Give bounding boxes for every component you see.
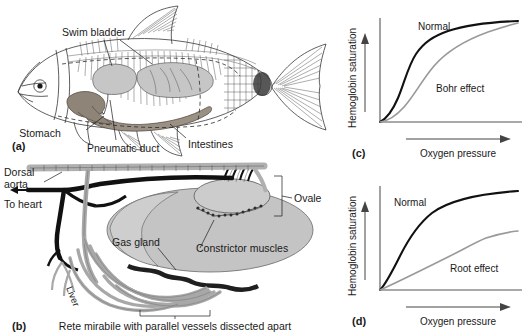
x-axis-arrowhead <box>500 303 511 311</box>
curve-label-bohr: Bohr effect <box>436 83 484 94</box>
y-axis-arrowhead <box>361 33 369 44</box>
panel-b-rete-mirabile: Liver Dorsal aorta To heart Ovale Constr… <box>0 158 340 334</box>
curve-root-effect <box>380 231 518 290</box>
panel-letter-b: (b) <box>12 320 26 332</box>
y-axis-arrowhead <box>361 201 369 212</box>
panel-letter-d: (d) <box>352 315 366 327</box>
panel-a-fish-anatomy: Swim bladder Stomach Pneumatic duct Inte… <box>0 0 340 160</box>
curve-label-root: Root effect <box>450 263 498 274</box>
label-stomach: Stomach <box>19 127 61 139</box>
curve-bohr-effect <box>380 23 518 122</box>
panel-letter-c: (c) <box>352 147 366 159</box>
label-dorsal-aorta-line1: Dorsal <box>4 166 34 178</box>
curve-label-normal: Normal <box>418 21 450 32</box>
curve-label-normal: Normal <box>394 197 426 208</box>
curve-normal <box>380 21 518 122</box>
label-gas-gland: Gas gland <box>112 236 160 248</box>
label-dorsal-aorta-line2: aorta <box>4 178 28 190</box>
x-axis-arrowhead <box>500 135 511 143</box>
label-to-heart: To heart <box>4 198 42 210</box>
figure-swim-bladder-and-hemoglobin: Swim bladder Stomach Pneumatic duct Inte… <box>0 0 530 334</box>
panel-letter-a: (a) <box>12 140 26 152</box>
label-ovale: Ovale <box>294 192 322 204</box>
panel-d-root-chart: Hemoglobin saturation Normal Root effect… <box>340 166 530 334</box>
x-axis-label: Oxygen pressure <box>420 148 497 159</box>
label-pneumatic-duct: Pneumatic duct <box>87 142 159 154</box>
y-axis-label: Hemoglobin saturation <box>347 196 358 296</box>
x-axis-label: Oxygen pressure <box>420 316 497 327</box>
y-axis-label-line1: Hemoglobin saturation <box>347 28 358 128</box>
label-swim-bladder: Swim bladder <box>62 26 126 38</box>
label-intestines: Intestines <box>188 138 233 150</box>
caption-rete-mirabile: Rete mirabile with parallel vessels diss… <box>59 320 291 332</box>
label-liver: Liver <box>64 285 82 308</box>
panel-c-bohr-chart: Hemoglobin saturation Normal Bohr effect… <box>340 0 530 166</box>
label-constrictor-muscles: Constrictor muscles <box>196 242 288 254</box>
